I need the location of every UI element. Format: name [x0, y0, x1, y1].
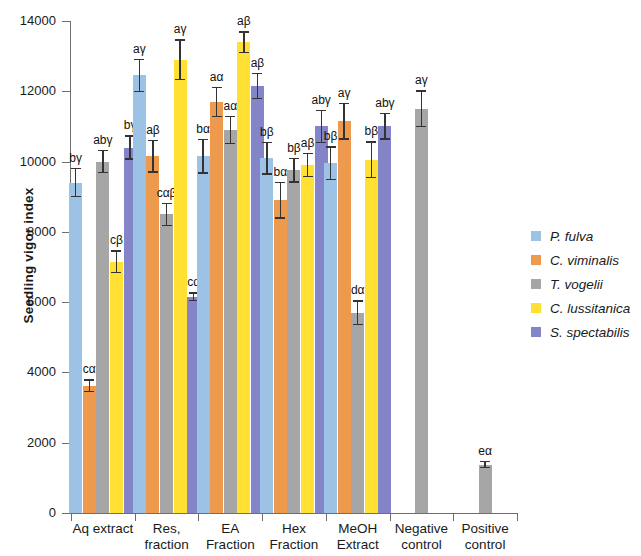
- bar[interactable]: aβ: [237, 42, 250, 513]
- significance-label: aγ: [174, 22, 187, 36]
- legend-item[interactable]: C. lussitanica: [531, 296, 630, 320]
- x-axis-tick: [390, 513, 391, 521]
- error-bar: [230, 116, 231, 144]
- error-bar: [321, 110, 322, 143]
- error-bar: [202, 139, 203, 174]
- error-bar: [139, 59, 140, 93]
- x-axis-label-line: Positive: [447, 521, 523, 537]
- bar-fill: [287, 170, 300, 513]
- error-bar: [216, 87, 217, 117]
- legend-item[interactable]: C. viminalis: [531, 248, 630, 272]
- bar[interactable]: eα: [479, 465, 492, 513]
- significance-label: aγ: [338, 86, 351, 100]
- bar-fill: [210, 102, 223, 513]
- y-axis-tick-label: 0: [0, 505, 56, 520]
- bar[interactable]: dα: [351, 313, 364, 513]
- significance-label: aβ: [146, 123, 160, 137]
- legend-label: P. fulva: [550, 229, 593, 244]
- bar-fill: [338, 121, 351, 513]
- bar[interactable]: aγ: [338, 121, 351, 513]
- bar-fill: [351, 313, 364, 513]
- bar[interactable]: bβ: [287, 170, 300, 513]
- bar-fill: [160, 214, 173, 513]
- bar-fill: [146, 156, 159, 513]
- legend-item[interactable]: S. spectabilis: [531, 320, 630, 344]
- bar[interactable]: aγ: [133, 75, 146, 513]
- significance-label: bβ: [260, 125, 274, 139]
- significance-label: cα: [83, 362, 96, 376]
- x-axis-tick: [198, 513, 199, 521]
- significance-label: bβ: [287, 141, 301, 155]
- bar[interactable]: aβ: [146, 156, 159, 513]
- error-bar: [152, 140, 153, 173]
- bar[interactable]: bα: [274, 200, 287, 513]
- bar-fill: [83, 386, 96, 513]
- error-bar: [129, 135, 130, 160]
- significance-label: bβ: [365, 124, 379, 138]
- x-axis-label-line: control: [447, 537, 523, 553]
- legend-label: C. lussitanica: [550, 301, 630, 316]
- legend-item[interactable]: T. vogelii: [531, 272, 630, 296]
- x-axis-tick: [135, 513, 136, 521]
- bar[interactable]: bβ: [365, 160, 378, 513]
- significance-label: aβ: [237, 14, 251, 28]
- significance-label: bα: [196, 122, 210, 136]
- error-bar: [179, 39, 180, 80]
- error-bar: [307, 153, 308, 178]
- error-bar: [330, 146, 331, 180]
- bar-group: bγcαabγcβbγ: [69, 21, 136, 513]
- error-bar: [421, 90, 422, 127]
- bar[interactable]: bγ: [69, 183, 82, 513]
- bar[interactable]: aγ: [174, 60, 187, 513]
- bar-group: bβaγdαbβabγ: [324, 21, 391, 513]
- legend-label: S. spectabilis: [550, 325, 630, 340]
- bar-group: eα: [479, 21, 492, 513]
- error-bar: [102, 150, 103, 173]
- bar[interactable]: aα: [210, 102, 223, 513]
- error-bar: [343, 103, 344, 140]
- legend-item[interactable]: P. fulva: [531, 224, 630, 248]
- bar-fill: [274, 200, 287, 513]
- y-axis-tick-label: 6000: [0, 294, 56, 309]
- bar-fill: [260, 158, 273, 513]
- x-axis-tick: [326, 513, 327, 521]
- bar-group: bαaαaαaβaβ: [197, 21, 264, 513]
- bar[interactable]: abγ: [378, 126, 391, 513]
- error-bar: [257, 73, 258, 100]
- bar-fill: [197, 156, 210, 513]
- x-axis-tick: [71, 513, 72, 521]
- significance-label: aα: [223, 99, 237, 113]
- bar[interactable]: aα: [224, 130, 237, 513]
- bar[interactable]: cβ: [110, 262, 123, 513]
- bar-fill: [479, 465, 492, 513]
- bar[interactable]: aβ: [301, 165, 314, 513]
- x-axis-tick: [453, 513, 454, 521]
- significance-label: eα: [478, 444, 492, 458]
- bar-fill: [415, 109, 428, 513]
- error-bar: [280, 182, 281, 219]
- y-axis-tick-label: 12000: [0, 83, 56, 98]
- bar[interactable]: aγ: [415, 109, 428, 513]
- chart-figure: Seedling vigor index 0200040006000800010…: [0, 0, 641, 556]
- legend-swatch: [531, 327, 541, 337]
- y-axis-tick-label: 4000: [0, 364, 56, 379]
- bar[interactable]: cα: [83, 386, 96, 513]
- error-bar: [384, 113, 385, 140]
- bar[interactable]: bβ: [324, 163, 337, 513]
- y-axis-tick-label: 8000: [0, 224, 56, 239]
- significance-label: aα: [210, 70, 224, 84]
- chart-legend: P. fulvaC. viminalisT. vogeliiC. lussita…: [531, 224, 630, 344]
- bar[interactable]: abγ: [96, 162, 109, 513]
- error-bar: [89, 379, 90, 392]
- bar[interactable]: cαβ: [160, 214, 173, 513]
- error-bar: [75, 168, 76, 198]
- error-bar: [293, 158, 294, 183]
- bar-fill: [96, 162, 109, 513]
- significance-label: abγ: [375, 96, 394, 110]
- bar[interactable]: bα: [197, 156, 210, 513]
- significance-label: cβ: [110, 233, 123, 247]
- bar[interactable]: bβ: [260, 158, 273, 513]
- x-axis-line: [70, 513, 518, 514]
- bar-fill: [133, 75, 146, 513]
- legend-label: T. vogelii: [550, 277, 603, 292]
